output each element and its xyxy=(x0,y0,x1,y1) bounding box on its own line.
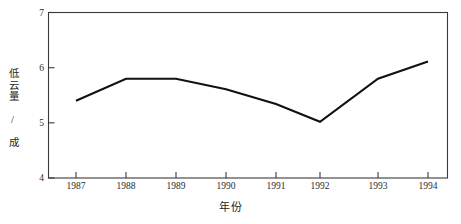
y-tick-label-6: 6 xyxy=(22,63,44,73)
x-tick-label-1988: 1988 xyxy=(117,181,136,191)
y-tick-marks xyxy=(49,13,55,179)
data-series-line xyxy=(76,62,428,122)
x-axis-title: 年份 xyxy=(0,198,461,214)
x-tick-label-1987: 1987 xyxy=(67,181,86,191)
y-tick-label-5: 5 xyxy=(22,118,44,128)
y-tick-label-4: 4 xyxy=(22,173,44,183)
line-chart-figure: 4 5 6 7 1987 1988 1989 1990 1991 1992 19… xyxy=(0,0,461,224)
x-tick-label-1993: 1993 xyxy=(369,181,388,191)
y-tick-label-7: 7 xyxy=(22,8,44,18)
x-tick-label-1992: 1992 xyxy=(311,181,330,191)
x-tick-label-1990: 1990 xyxy=(217,181,236,191)
x-tick-label-1989: 1989 xyxy=(167,181,186,191)
x-tick-marks xyxy=(76,172,428,178)
y-axis-title: 低云量 / 成 xyxy=(0,60,18,156)
x-tick-label-1991: 1991 xyxy=(267,181,286,191)
x-tick-label-1994: 1994 xyxy=(419,181,438,191)
